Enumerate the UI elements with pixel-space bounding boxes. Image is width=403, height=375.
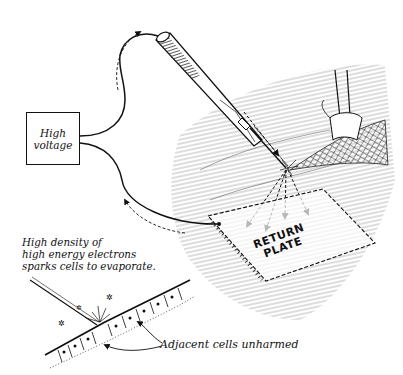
power-box-line2: voltage xyxy=(33,139,72,151)
inset-caption: High density of high energy electrons sp… xyxy=(22,236,156,272)
caption-line1: High density of xyxy=(22,236,156,248)
high-voltage-box: High voltage xyxy=(26,112,80,165)
inset-cell-diagram: ✲ ✲ ✲ xyxy=(30,277,195,368)
caption-line2: high energy electrons xyxy=(22,248,156,260)
electrosurgery-illustration: ✲ ✲ ✲ xyxy=(0,0,403,375)
svg-text:✲: ✲ xyxy=(76,304,82,312)
tissue-surface xyxy=(171,64,395,320)
adjacent-cells-label: Adjacent cells unharmed xyxy=(160,338,299,351)
svg-text:✲: ✲ xyxy=(58,319,65,328)
power-box-line1: High xyxy=(40,127,66,139)
svg-text:✲: ✲ xyxy=(106,293,113,302)
caption-line3: sparks cells to evaporate. xyxy=(22,260,156,272)
